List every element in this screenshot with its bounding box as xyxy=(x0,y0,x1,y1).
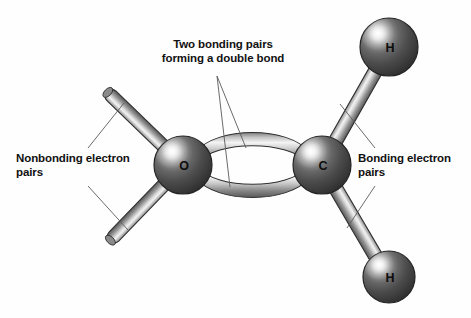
leader-line-nonbonding-upper xyxy=(88,103,124,148)
atom-oxygen: O xyxy=(154,136,212,194)
callout-bonding-line1: Bonding electron xyxy=(358,151,471,165)
atom-label-oxygen: O xyxy=(179,159,189,173)
callout-bonding-electron-pairs: Bonding electron pairs xyxy=(358,151,471,179)
atom-label-carbon: C xyxy=(318,159,327,173)
double-bond-lower-arc xyxy=(195,167,311,198)
atom-hydrogen-bottom: H xyxy=(363,251,415,303)
callout-double-bond-line1: Two bonding pairs xyxy=(153,37,293,51)
callout-double-bond: Two bonding pairs forming a double bond xyxy=(153,37,293,65)
callout-nonbonding-electron-pairs: Nonbonding electron pairs xyxy=(16,151,141,179)
callout-bonding-line2: pairs xyxy=(358,165,471,179)
atom-hydrogen-top: H xyxy=(360,18,418,76)
atom-label-hydrogen-top: H xyxy=(385,41,394,55)
callout-nonbonding-line1: Nonbonding electron xyxy=(16,151,141,165)
callout-nonbonding-line2: pairs xyxy=(16,165,141,179)
leader-line-nonbonding-lower xyxy=(88,186,128,230)
molecule-diagram: O C H H xyxy=(0,0,471,318)
atom-carbon: C xyxy=(293,136,351,194)
double-bond-upper-arc xyxy=(195,133,311,164)
atom-label-hydrogen-bottom: H xyxy=(385,271,394,285)
callout-double-bond-line2: forming a double bond xyxy=(153,51,293,65)
